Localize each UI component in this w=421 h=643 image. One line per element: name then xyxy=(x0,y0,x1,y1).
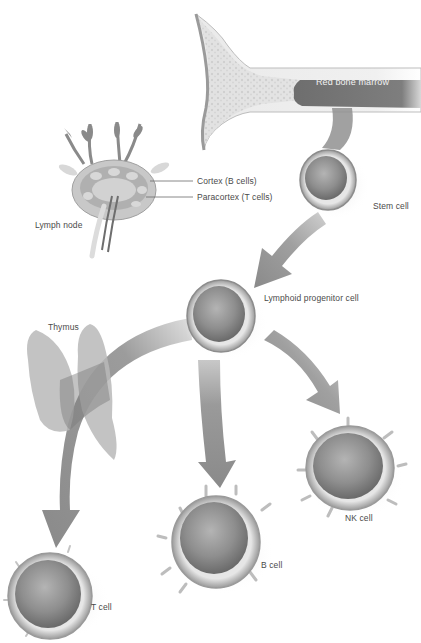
label-cortex: Cortex (B cells) xyxy=(197,176,257,186)
arrow-progenitor-to-t-cell xyxy=(42,318,192,548)
label-lymph-node: Lymph node xyxy=(35,220,82,230)
label-lymphoid-progenitor: Lymphoid progenitor cell xyxy=(264,293,359,303)
arrow-stem-to-progenitor xyxy=(254,212,326,288)
nk-cell-illustration xyxy=(298,418,406,520)
arrow-progenitor-to-nk-cell xyxy=(264,330,340,414)
b-cell-illustration xyxy=(158,486,274,594)
lymphoid-progenitor-illustration xyxy=(184,280,268,360)
arrow-marrow-to-stem xyxy=(322,108,353,150)
arrow-progenitor-to-b-cell xyxy=(198,360,236,488)
diagram-canvas: Red bone marrow Cortex (B cells) Paracor… xyxy=(0,0,421,643)
label-paracortex: Paracortex (T cells) xyxy=(197,192,273,202)
t-cell-illustration xyxy=(4,546,110,640)
label-stem-cell: Stem cell xyxy=(373,201,409,211)
label-t-cell: T cell xyxy=(91,602,112,612)
lymph-node-illustration xyxy=(57,122,193,256)
label-nk-cell: NK cell xyxy=(345,513,373,523)
stem-cell-illustration xyxy=(298,150,370,220)
label-red-bone-marrow: Red bone marrow xyxy=(316,77,389,87)
label-thymus: Thymus xyxy=(48,322,79,332)
label-b-cell: B cell xyxy=(261,560,282,570)
